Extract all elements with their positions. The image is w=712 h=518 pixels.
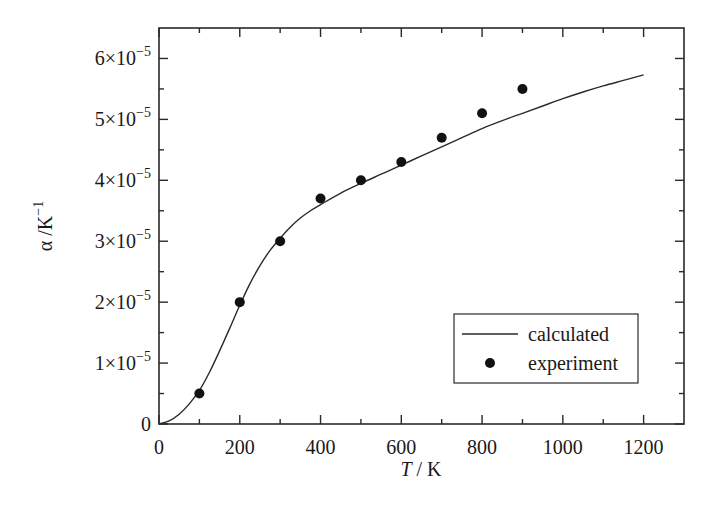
y-tick-label: 1×10−5 bbox=[95, 349, 151, 374]
y-tick-label: 5×10−5 bbox=[95, 105, 151, 130]
y-tick-label: 0 bbox=[141, 413, 151, 435]
x-tick-labels: 020040060080010001200 bbox=[154, 436, 664, 458]
y-tick-label: 6×10−5 bbox=[95, 44, 151, 69]
y-axis-title-exp: −1 bbox=[31, 201, 46, 216]
x-axis-title-unit: / K bbox=[412, 458, 443, 480]
y-tick-labels: 01×10−52×10−53×10−54×10−55×10−56×10−5 bbox=[95, 44, 151, 435]
y-tick-label: 4×10−5 bbox=[95, 166, 151, 191]
legend-label-experiment: experiment bbox=[528, 352, 618, 375]
experiment-point bbox=[194, 389, 204, 399]
y-axis-title-main: α /K bbox=[34, 215, 56, 251]
x-axis-title: T / K bbox=[400, 458, 442, 480]
experiment-point bbox=[396, 157, 406, 167]
thermal-expansion-chart: 020040060080010001200 01×10−52×10−53×10−… bbox=[0, 0, 712, 518]
experiment-point bbox=[517, 84, 527, 94]
y-tick-label: 2×10−5 bbox=[95, 288, 151, 313]
legend-dot-icon bbox=[485, 358, 495, 368]
experiment-point bbox=[437, 133, 447, 143]
experiment-point bbox=[356, 175, 366, 185]
x-tick-label: 600 bbox=[386, 436, 416, 458]
x-tick-label: 1200 bbox=[624, 436, 664, 458]
x-tick-label: 800 bbox=[467, 436, 497, 458]
y-tick-label: 3×10−5 bbox=[95, 227, 151, 252]
legend: calculated experiment bbox=[454, 314, 638, 383]
x-tick-label: 200 bbox=[225, 436, 255, 458]
x-tick-label: 400 bbox=[306, 436, 336, 458]
experiment-point bbox=[477, 108, 487, 118]
y-axis-title: α /K−1 bbox=[31, 201, 56, 251]
experiment-point bbox=[235, 297, 245, 307]
x-tick-label: 1000 bbox=[543, 436, 583, 458]
experiment-point bbox=[275, 236, 285, 246]
experiment-point bbox=[316, 194, 326, 204]
legend-label-calculated: calculated bbox=[528, 323, 609, 345]
x-tick-label: 0 bbox=[154, 436, 164, 458]
